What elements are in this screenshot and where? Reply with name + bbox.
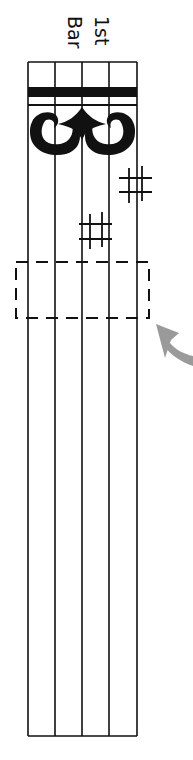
- sharp-icon-2: [79, 212, 112, 249]
- staff-lines: [28, 62, 137, 736]
- music-staff-diagram: [0, 0, 193, 760]
- sharp-icon-1: [119, 166, 152, 203]
- curved-arrow-icon: [156, 324, 193, 366]
- thick-barline: [28, 87, 137, 97]
